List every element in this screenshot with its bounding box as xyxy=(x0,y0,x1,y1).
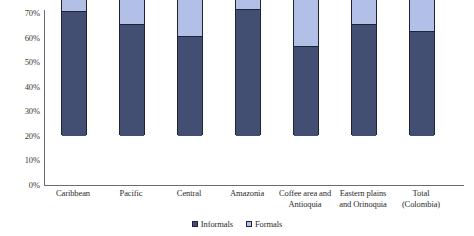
bar-stack xyxy=(351,0,377,135)
bars-container xyxy=(44,0,464,186)
bar-segment-formals xyxy=(294,0,318,46)
bar-group-total-colombia xyxy=(409,0,435,135)
bar-segment-formals xyxy=(352,0,376,24)
bar-segment-formals xyxy=(120,0,144,24)
bar-stack xyxy=(119,0,145,135)
bar-segment-formals xyxy=(62,0,86,11)
chart-legend: Informals Formals xyxy=(0,219,474,229)
x-tick-label-total-colombia: Total (Colombia) xyxy=(380,188,462,209)
bar-segment-informals xyxy=(236,9,260,137)
bar-group-caribbean xyxy=(61,0,87,135)
bar-segment-formals xyxy=(236,0,260,9)
legend-label-informals: Informals xyxy=(201,219,233,229)
y-tick-label: 30% xyxy=(0,107,40,116)
bar-segment-informals xyxy=(294,46,318,136)
bar-group-central xyxy=(177,0,203,135)
bar-stack xyxy=(61,0,87,135)
y-tick-label: 50% xyxy=(0,58,40,67)
legend-item-informals: Informals xyxy=(192,219,233,229)
y-tick-label: 20% xyxy=(0,132,40,141)
x-tick-label-line: (Colombia) xyxy=(380,199,462,210)
bar-segment-formals xyxy=(410,0,434,31)
bar-segment-informals xyxy=(62,11,86,136)
y-tick-label: 70% xyxy=(0,9,40,18)
bar-segment-formals xyxy=(178,0,202,36)
bar-segment-informals xyxy=(352,24,376,137)
bar-segment-informals xyxy=(410,31,434,136)
y-tick-label: 40% xyxy=(0,83,40,92)
bar-stack xyxy=(293,0,319,135)
bar-group-coffee-area-and-antioquia xyxy=(293,0,319,135)
stacked-bar-chart: 70% 60% 50% 40% 30% 20% 10% 0% xyxy=(0,0,474,236)
bar-group-eastern-plains-and-orinoquia xyxy=(351,0,377,135)
bar-segment-informals xyxy=(120,24,144,137)
bar-segment-informals xyxy=(178,36,202,136)
y-tick-label: 60% xyxy=(0,34,40,43)
y-axis-tick-labels: 70% 60% 50% 40% 30% 20% 10% 0% xyxy=(0,0,40,236)
x-tick-label-line: Total xyxy=(380,188,462,199)
bar-stack xyxy=(235,0,261,135)
legend-item-formals: Formals xyxy=(246,219,282,229)
legend-swatch-formals-icon xyxy=(246,221,252,227)
y-tick-label: 10% xyxy=(0,156,40,165)
bar-stack xyxy=(177,0,203,135)
legend-swatch-informals-icon xyxy=(192,221,198,227)
x-axis-category-labels: Caribbean Pacific Central Amazonia Coffe… xyxy=(44,188,464,218)
bar-group-amazonia xyxy=(235,0,261,135)
bar-group-pacific xyxy=(119,0,145,135)
legend-label-formals: Formals xyxy=(255,219,282,229)
bar-stack xyxy=(409,0,435,135)
